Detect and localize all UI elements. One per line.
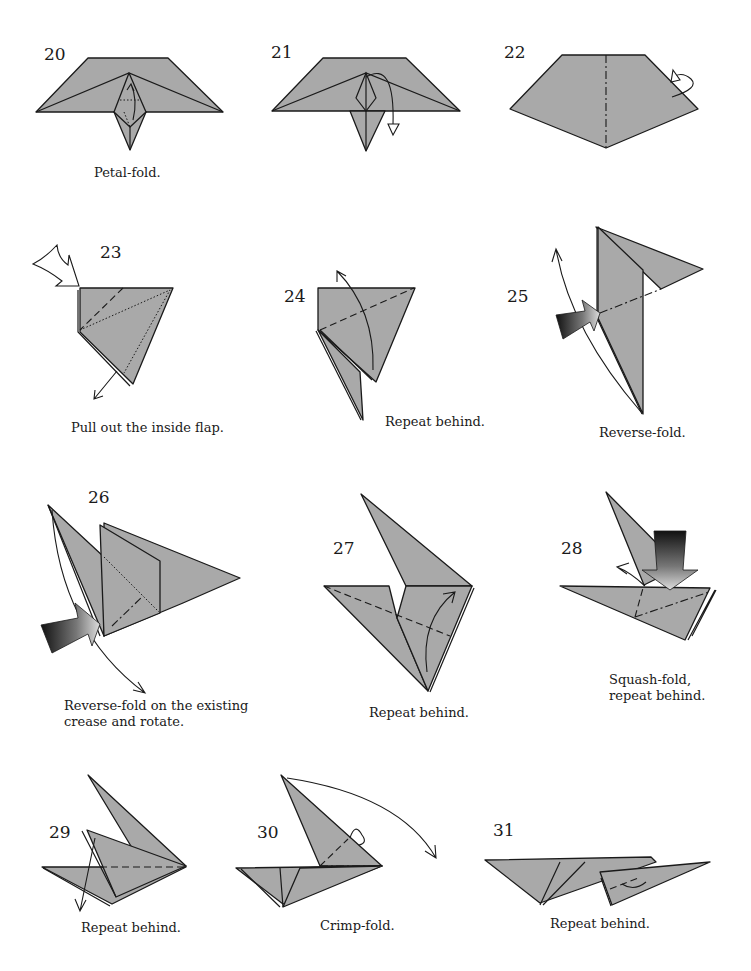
pull-arrow-icon: [94, 371, 117, 399]
step-number: 21: [271, 42, 293, 62]
step-caption-line2: crease and rotate.: [64, 714, 184, 730]
diagram-canvas: [0, 0, 751, 971]
step-caption: Repeat behind.: [369, 705, 469, 721]
step-31-diagram: [485, 857, 710, 906]
step-caption: Repeat behind.: [81, 920, 181, 936]
step-caption: Pull out the inside flap.: [71, 420, 224, 436]
step-number: 28: [561, 538, 583, 558]
step-caption: Crimp-fold.: [320, 918, 395, 934]
step-caption-line2: repeat behind.: [609, 688, 705, 704]
step-25-diagram: [552, 227, 703, 414]
step-29-diagram: [42, 775, 186, 911]
step-number: 29: [49, 822, 71, 842]
step-number: 26: [88, 487, 110, 507]
step-28-diagram: [560, 492, 716, 640]
step-caption: Reverse-fold.: [599, 425, 686, 441]
step-caption-line1: Squash-fold,: [609, 672, 691, 688]
step-23-diagram: [33, 245, 173, 399]
step-number: 22: [504, 42, 526, 62]
step-24-diagram: [316, 271, 415, 420]
step-20-diagram: [36, 58, 223, 150]
step-number: 30: [257, 822, 279, 842]
step-26-diagram: [41, 505, 240, 693]
push-arrow-icon: [41, 603, 100, 653]
push-arrow-icon: [556, 300, 600, 339]
step-number: 31: [493, 820, 515, 840]
step-caption: Petal-fold.: [94, 165, 161, 181]
step-21-diagram: [272, 58, 460, 151]
step-number: 20: [44, 44, 66, 64]
push-arrow-icon: [33, 245, 79, 286]
step-caption: Repeat behind.: [385, 414, 485, 430]
step-number: 24: [284, 286, 306, 306]
step-27-diagram: [324, 494, 474, 692]
step-number: 25: [507, 286, 529, 306]
step-number: 23: [100, 242, 122, 262]
step-22-diagram: [510, 55, 698, 148]
arrowhead-icon: [388, 124, 399, 135]
step-caption: Repeat behind.: [550, 916, 650, 932]
step-caption-line1: Reverse-fold on the existing: [64, 698, 248, 714]
step-number: 27: [333, 538, 355, 558]
